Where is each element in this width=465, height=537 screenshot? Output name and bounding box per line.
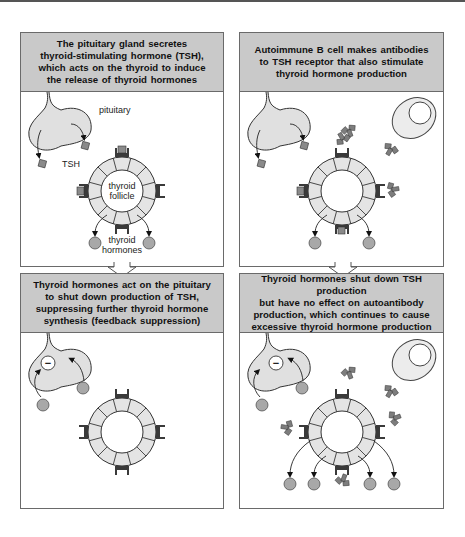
panel-caption: Autoimmune B cell makes antibodies to TS… — [254, 44, 428, 80]
thyroid-hormone-icon — [363, 237, 375, 249]
antibody-icon — [340, 365, 358, 381]
tsh-receptor-icon — [79, 425, 88, 439]
antibody-icon — [386, 181, 400, 198]
antibody-icon — [381, 141, 400, 158]
tsh-receptor-icon — [115, 466, 129, 475]
tsh-receptor-icon — [299, 425, 308, 439]
inhibition-icon: − — [269, 356, 283, 370]
tsh-receptor-icon — [335, 225, 349, 234]
thyroid-hormone-icon — [89, 237, 101, 249]
top-rule — [0, 0, 465, 2]
panel-autoimmune-feedback-failure: Thyroid hormones shut down TSH productio… — [239, 273, 444, 509]
thyroid-hormone-icon — [388, 478, 400, 490]
thyroid-follicle-icon — [308, 157, 376, 225]
panel-caption: The pituitary gland secretes thyroid-sti… — [39, 38, 206, 86]
label-tsh: TSH — [62, 159, 80, 169]
diagram-normal-feedback: − — [21, 333, 225, 510]
tsh-receptor-icon — [335, 466, 349, 475]
antibody-icon — [381, 383, 400, 400]
svg-text:−: − — [273, 357, 279, 369]
panel-caption-box: Autoimmune B cell makes antibodies to TS… — [240, 33, 443, 92]
tsh-receptor-icon — [376, 425, 385, 439]
thyroid-hormone-icon — [143, 237, 155, 249]
inhibition-icon: − — [41, 356, 55, 370]
thyroid-hormone-icon — [284, 478, 296, 490]
diagram-autoimmune-stimulation — [240, 92, 445, 268]
tsh-receptor-icon — [115, 225, 129, 234]
thyroid-hormone-icon — [37, 399, 49, 411]
tsh-receptor-icon — [335, 389, 349, 398]
tsh-molecule-icon — [257, 159, 266, 168]
diagram-normal-stimulation: pituitary TSH — [21, 92, 225, 268]
panel-caption: Thyroid hormones act on the pituitary to… — [33, 279, 211, 327]
diagram-autoimmune-feedback-failure: − — [240, 333, 445, 510]
panel-autoimmune-stimulation: Autoimmune B cell makes antibodies to TS… — [239, 32, 444, 267]
thyroid-hormone-icon — [309, 237, 321, 249]
tsh-receptor-icon — [376, 184, 385, 198]
tsh-receptor-icon — [297, 184, 308, 198]
panel-caption-box: The pituitary gland secretes thyroid-sti… — [21, 33, 223, 92]
thyroid-follicle-icon — [88, 398, 156, 466]
thyroid-hormone-icon — [308, 478, 320, 490]
thyroid-hormone-icon — [296, 382, 308, 394]
b-cell-icon — [384, 92, 443, 147]
thyroid-follicle-icon — [308, 398, 376, 466]
tsh-receptor-icon — [156, 425, 165, 439]
label-follicle-2: follicle — [109, 191, 134, 201]
tsh-molecule-icon — [38, 159, 47, 168]
tsh-receptor-icon — [77, 184, 88, 198]
label-hormones-2: hormones — [102, 245, 143, 255]
tsh-receptor-icon — [335, 148, 349, 157]
tsh-receptor-icon — [115, 146, 129, 157]
svg-text:−: − — [45, 357, 51, 369]
label-hormones-1: thyroid — [108, 235, 135, 245]
panel-normal-stimulation: The pituitary gland secretes thyroid-sti… — [20, 32, 224, 267]
panel-caption-box: Thyroid hormones shut down TSH productio… — [240, 274, 443, 333]
label-follicle-1: thyroid — [108, 181, 135, 191]
tsh-receptor-icon — [115, 389, 129, 398]
panel-caption-box: Thyroid hormones act on the pituitary to… — [21, 274, 223, 333]
tsh-molecule-icon — [81, 141, 90, 150]
thyroid-hormone-icon — [256, 399, 268, 411]
thyroid-hormone-icon — [77, 382, 89, 394]
antibody-icon — [280, 419, 294, 436]
antibody-icon — [387, 409, 403, 427]
tsh-molecule-icon — [300, 141, 309, 150]
label-pituitary: pituitary — [99, 105, 131, 115]
thyroid-hormone-icon — [364, 478, 376, 490]
tsh-receptor-icon — [156, 184, 165, 198]
b-cell-icon — [384, 333, 443, 389]
panel-caption: Thyroid hormones shut down TSH productio… — [240, 273, 443, 333]
panel-normal-feedback: Thyroid hormones act on the pituitary to… — [20, 273, 224, 509]
